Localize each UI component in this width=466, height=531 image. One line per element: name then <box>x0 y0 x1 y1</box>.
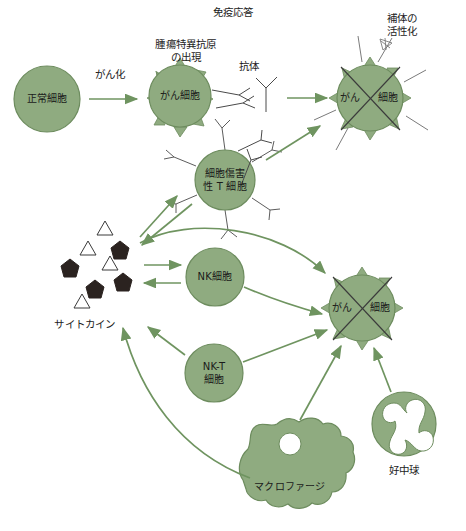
cell-cancer-killed-top <box>314 36 428 150</box>
cell-label-cancer: がん細胞 <box>160 90 201 103</box>
arrow-ctl-to-cancer-top <box>266 126 320 160</box>
cell-label-cancer-killed-top-left: がん <box>340 92 360 105</box>
arrow-macrophage-to-cancer-bottom <box>300 346 341 420</box>
annotation-neutrophil: 好中球 <box>389 464 420 477</box>
cytokine-cluster <box>61 221 132 308</box>
antibody-icon <box>238 130 272 151</box>
antibody-icon <box>216 96 255 108</box>
cell-label-nk: NK細胞 <box>198 271 233 284</box>
cell-label-cancer-killed-bottom-left: がん <box>332 302 352 315</box>
antibody-icon <box>212 88 250 101</box>
cell-label-cytotoxic-t: 細胞傷害 性 T 細胞 <box>203 168 247 193</box>
complement-glyph <box>380 38 392 50</box>
annotation-immune-response: 免疫応答 <box>213 6 254 19</box>
cell-label-normal: 正常細胞 <box>27 93 68 106</box>
arrow-neutrophil-to-cancer-bottom <box>374 348 391 392</box>
arrow-nkt-to-cytokine <box>148 327 185 355</box>
cell-macrophage <box>239 418 354 508</box>
annotation-canceration: がん化 <box>95 68 126 81</box>
annotation-cytokine: サイトカイン <box>54 318 115 331</box>
annotation-complement: 補体の 活性化 <box>387 12 418 38</box>
cell-label-cancer-killed-top-right: 細胞 <box>378 92 398 105</box>
diagram-canvas <box>0 0 466 531</box>
antibody-icon <box>256 77 277 112</box>
cell-neutrophil <box>372 392 436 456</box>
annotation-antibody: 抗体 <box>239 60 259 73</box>
cytokine-pentagon-icon <box>61 241 132 298</box>
cell-label-macrophage: マクロファージ <box>254 481 325 494</box>
arrow-nk-to-cancer-bottom <box>244 287 322 314</box>
immune-response-diagram: 免疫応答 腫瘍特異抗原 の出現 抗体 補体の 活性化 がん化 サイトカイン 好中… <box>0 0 466 531</box>
annotation-tumor-antigen: 腫瘍特異抗原 の出現 <box>155 38 216 64</box>
arrow-nkt-to-cancer-bottom <box>243 330 327 362</box>
cell-label-cancer-killed-bottom-right: 細胞 <box>370 302 390 315</box>
cell-label-nkt: NK-T 細胞 <box>203 361 226 386</box>
